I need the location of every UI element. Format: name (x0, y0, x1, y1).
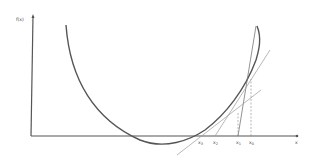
y-axis-arrow (32, 14, 35, 18)
y-axis-label: f(x) (16, 18, 24, 23)
iterate-label-x3: x3 (198, 141, 203, 147)
function-curve (66, 25, 260, 144)
x-axis-label: x (295, 141, 298, 146)
y-axis (31, 16, 33, 136)
diagram-canvas (0, 0, 313, 162)
x-axis-arrow (296, 135, 299, 138)
iterate-label-x2: x2 (213, 141, 218, 147)
tangent-line-x1 (215, 50, 270, 136)
iterate-label-x1: x1 (236, 141, 241, 147)
iterate-label-x0: x0 (249, 141, 254, 147)
tangent-line-x0 (238, 26, 256, 136)
